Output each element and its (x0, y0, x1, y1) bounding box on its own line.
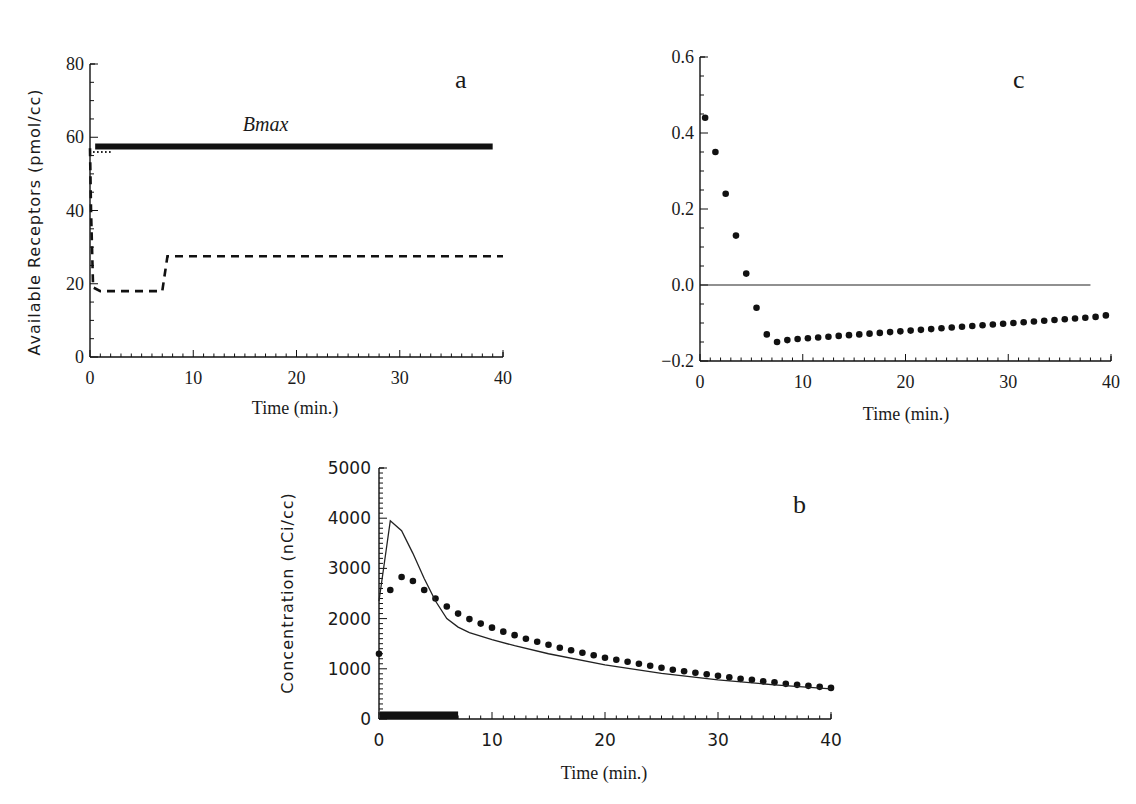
measured-point (624, 658, 631, 665)
x-tick-label: 0 (86, 368, 95, 388)
measured-point (387, 587, 394, 594)
measured-point (670, 667, 677, 674)
x-tick-label: 40 (1102, 372, 1120, 392)
residual-point (979, 322, 986, 329)
plot-area-c: 010203040−0.20.00.20.40.6 (661, 47, 1120, 392)
residual-point (805, 335, 812, 342)
measured-point (398, 574, 405, 581)
measured-point (602, 654, 609, 661)
x-tick-label: 40 (494, 368, 512, 388)
panel-label-c: c (1013, 65, 1025, 94)
measured-point (805, 683, 812, 690)
residual-point (1041, 317, 1048, 324)
y-axis-title-b: Concentration (nCi/cc) (278, 492, 297, 694)
residual-point (784, 337, 791, 344)
residual-point (1031, 318, 1038, 325)
measured-point (455, 610, 462, 617)
measured-point (466, 616, 473, 623)
residual-point (1010, 320, 1017, 327)
residual-point (1061, 316, 1068, 323)
residual-point (918, 327, 925, 334)
x-tick-label: 10 (481, 730, 503, 750)
measured-point (636, 660, 643, 667)
residual-point (733, 232, 740, 239)
residual-point (815, 334, 822, 341)
residual-point (835, 333, 842, 340)
y-tick-label: 0.0 (672, 275, 695, 295)
residual-point (1000, 320, 1007, 327)
residual-point (969, 323, 976, 330)
measured-point (477, 620, 484, 627)
measured-point (828, 685, 835, 692)
x-tick-label: 40 (820, 730, 842, 750)
residual-point (774, 339, 781, 346)
residual-point (1020, 319, 1027, 326)
x-tick-label: 20 (594, 730, 616, 750)
residual-point (856, 331, 863, 338)
y-tick-label: 0.4 (672, 123, 695, 143)
measured-point (590, 652, 597, 659)
figure: 010203040020406080Bmax a Time (min.) Ava… (0, 0, 1136, 804)
y-tick-label: 2000 (328, 609, 371, 629)
residual-point (990, 321, 997, 328)
residual-point (907, 327, 914, 334)
residual-point (877, 330, 884, 337)
residual-point (763, 331, 770, 338)
measured-point (579, 649, 586, 656)
x-tick-label: 0 (696, 372, 705, 392)
y-axis-title-a: Available Receptors (pmol/cc) (25, 88, 44, 355)
x-tick-label: 20 (288, 368, 306, 388)
measured-point (545, 641, 552, 648)
residual-point (1072, 315, 1079, 322)
residual-point (846, 332, 853, 339)
y-tick-label: 5000 (328, 458, 371, 478)
y-tick-label: 20 (66, 274, 84, 294)
measured-point (816, 684, 823, 691)
measured-point (410, 578, 417, 585)
plot-area-a: 010203040020406080Bmax (66, 54, 512, 388)
y-tick-label: 0.6 (672, 47, 695, 67)
bmax-annotation: Bmax (243, 113, 289, 135)
measured-point (489, 624, 496, 631)
panel-label-a: a (455, 65, 467, 94)
residual-point (928, 326, 935, 333)
measured-point (421, 587, 428, 594)
x-axis-title-b: Time (min.) (561, 763, 647, 784)
measured-point (444, 603, 451, 610)
x-tick-label: 10 (184, 368, 202, 388)
residual-point (702, 115, 709, 122)
measured-point (511, 632, 518, 639)
residual-point (959, 324, 966, 331)
x-tick-label: 0 (374, 730, 385, 750)
measured-point (715, 673, 722, 680)
y-tick-label: 0.2 (672, 199, 695, 219)
chart-panel-a: 010203040020406080Bmax a Time (min.) Ava… (25, 54, 512, 419)
y-tick-label: 4000 (328, 508, 371, 528)
measured-point (681, 668, 688, 675)
residual-point (897, 328, 904, 335)
y-tick-label: −0.2 (661, 351, 694, 371)
residual-point (938, 325, 945, 332)
y-tick-label: 0 (75, 347, 84, 367)
measured-point (500, 628, 507, 635)
infusion-bar (380, 711, 458, 719)
residual-point (743, 270, 750, 277)
measured-point (647, 662, 654, 669)
x-tick-label: 30 (391, 368, 409, 388)
chart-panel-b: 010203040010002000300040005000 b Time (m… (278, 458, 842, 784)
panel-label-b: b (793, 490, 806, 519)
measured-point (692, 670, 699, 677)
y-tick-label: 1000 (328, 659, 371, 679)
measured-point (726, 674, 733, 681)
residual-point (887, 329, 894, 336)
residual-point (825, 333, 832, 340)
residual-point (1092, 314, 1099, 321)
y-tick-label: 0 (360, 709, 371, 729)
x-axis-title-c: Time (min.) (863, 404, 949, 425)
residual-point (1082, 314, 1089, 321)
y-tick-label: 3000 (328, 558, 371, 578)
x-tick-label: 30 (999, 372, 1017, 392)
residual-point (948, 324, 955, 331)
x-tick-label: 30 (707, 730, 729, 750)
y-tick-label: 60 (66, 127, 84, 147)
